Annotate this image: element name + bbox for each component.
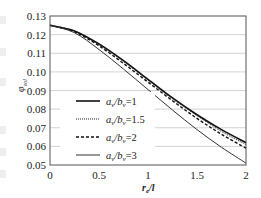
legend-label-4: av/bv=3 <box>106 150 137 163</box>
x-tick-label: 0 <box>47 169 53 181</box>
x-tick-label: 2 <box>243 169 249 181</box>
y-tick-label: 0.13 <box>27 10 47 22</box>
y-tick-label: 0.10 <box>27 66 47 78</box>
cropped-margin-text <box>0 78 6 86</box>
cropped-margin-text <box>0 126 6 134</box>
y-tick-label: 0.05 <box>27 159 47 171</box>
x-tick-label: 1.5 <box>190 169 204 181</box>
x-axis-ticks: 00.511.52 <box>47 169 249 181</box>
y-tick-label: 0.11 <box>27 47 46 59</box>
y-tick-label: 0.08 <box>27 103 47 115</box>
y-tick-label: 0.12 <box>27 29 46 41</box>
x-tick-label: 0.5 <box>92 169 106 181</box>
y-axis-ticks: 0.050.060.070.080.090.100.110.120.13 <box>27 10 47 171</box>
line-chart: 0.050.060.070.080.090.100.110.120.13 00.… <box>0 0 261 198</box>
cropped-margin-text <box>0 170 6 178</box>
cropped-margin-text <box>0 148 6 156</box>
y-tick-label: 0.06 <box>27 140 47 152</box>
x-axis-label: re/l <box>142 182 155 195</box>
y-tick-label: 0.07 <box>27 122 47 134</box>
cropped-margin-text <box>0 16 6 24</box>
cropped-margin-text <box>0 48 6 56</box>
legend: av/bv=1 av/bv=1.5 av/bv=2 av/bv=3 <box>60 92 155 163</box>
x-tick-label: 1 <box>145 169 151 181</box>
y-tick-label: 0.09 <box>27 85 47 97</box>
